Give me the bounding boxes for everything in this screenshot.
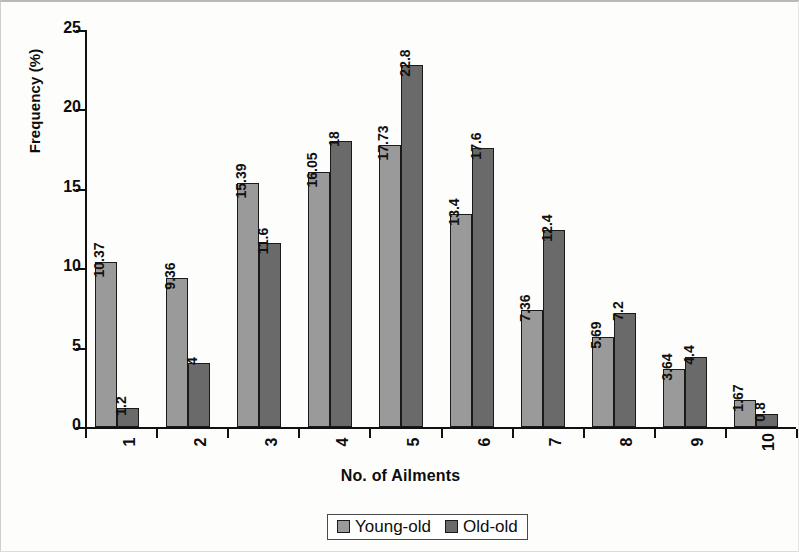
bar: 15.39 <box>237 183 259 427</box>
legend-label: Young-old <box>355 518 431 535</box>
legend-entry[interactable]: Young-old <box>337 518 431 535</box>
y-tick-label: 5 <box>72 337 81 355</box>
x-tick-label: 3 <box>263 422 281 462</box>
x-tick-mark <box>156 429 158 438</box>
bar: 7.2 <box>614 313 636 427</box>
x-tick-label: 2 <box>192 422 210 462</box>
bar-value-label: 10.37 <box>92 243 106 278</box>
x-tick-label: 7 <box>547 422 565 462</box>
y-tick-label: 15 <box>63 178 81 196</box>
bar-value-label: 11.6 <box>256 228 270 254</box>
bar-value-label: 5.69 <box>589 321 603 348</box>
bar-value-label: 17.6 <box>469 132 483 159</box>
bar-value-label: 15.39 <box>234 163 248 198</box>
x-tick-mark <box>369 429 371 438</box>
bar: 7.36 <box>521 310 543 427</box>
x-tick-mark <box>227 429 229 438</box>
bar-value-label: 22.8 <box>398 49 412 76</box>
y-tick-label: 25 <box>63 19 81 37</box>
bar-group: 17.7322.8 <box>369 30 440 427</box>
legend-entry[interactable]: Old-old <box>445 518 518 535</box>
bar-group: 5.697.2 <box>583 30 654 427</box>
bar-group: 13.417.6 <box>441 30 512 427</box>
x-tick-mark <box>298 429 300 438</box>
y-tick-label: 10 <box>63 257 81 275</box>
bar-value-label: 17.73 <box>376 126 390 161</box>
bar-value-label: 4.4 <box>682 345 696 364</box>
bar: 3.64 <box>663 369 685 427</box>
bar: 9.36 <box>166 278 188 427</box>
bar: 4 <box>188 363 210 427</box>
x-axis-title: No. of Ailments <box>1 467 799 485</box>
bar-value-label: 1.2 <box>114 396 128 415</box>
chart-legend: Young-oldOld-old <box>327 514 528 540</box>
x-tick-label: 6 <box>476 422 494 462</box>
bar-value-label: 9.36 <box>163 263 177 290</box>
bar: 17.6 <box>472 148 494 427</box>
bar-group: 7.3612.4 <box>512 30 583 427</box>
x-tick-mark <box>796 429 798 438</box>
bar-group: 15.3911.6 <box>227 30 298 427</box>
x-tick-mark <box>583 429 585 438</box>
bar: 12.4 <box>543 230 565 427</box>
bar-value-label: 7.2 <box>611 301 625 320</box>
bar-value-label: 16.05 <box>305 153 319 188</box>
bar-value-label: 7.36 <box>518 295 532 322</box>
y-tick-label: 0 <box>72 416 81 434</box>
x-tick-label: 4 <box>334 422 352 462</box>
bar-value-label: 18 <box>327 131 341 147</box>
bar: 22.8 <box>401 65 423 427</box>
bar: 5.69 <box>592 337 614 427</box>
x-tick-mark <box>85 429 87 438</box>
x-tick-mark <box>654 429 656 438</box>
bar-value-label: 13.4 <box>447 199 461 226</box>
plot-area: 0510152025 10.371.29.36415.3911.616.0518… <box>85 30 796 429</box>
bar-group: 16.0518 <box>298 30 369 427</box>
x-tick-mark <box>441 429 443 438</box>
legend-swatch-icon <box>445 520 458 533</box>
bar-value-label: 0.8 <box>753 403 767 422</box>
bar: 16.05 <box>308 172 330 427</box>
x-tick-label: 8 <box>618 422 636 462</box>
bar: 18 <box>330 141 352 427</box>
chart-figure: Frequency (%) 0510152025 10.371.29.36415… <box>0 0 799 552</box>
legend-label: Old-old <box>463 518 518 535</box>
bar-value-label: 3.64 <box>660 354 674 381</box>
bar: 17.73 <box>379 145 401 427</box>
legend-swatch-icon <box>337 520 350 533</box>
x-tick-label: 5 <box>405 422 423 462</box>
x-tick-label: 1 <box>121 422 139 462</box>
bar-group: 10.371.2 <box>85 30 156 427</box>
x-tick-mark <box>725 429 727 438</box>
y-axis-title: Frequency (%) <box>22 11 48 191</box>
y-tick-label: 20 <box>63 98 81 116</box>
bar: 4.4 <box>685 357 707 427</box>
x-tick-mark <box>512 429 514 438</box>
bar-group: 9.364 <box>156 30 227 427</box>
bar-value-label: 12.4 <box>540 214 554 241</box>
bar: 11.6 <box>259 243 281 427</box>
bar-group: 3.644.4 <box>654 30 725 427</box>
bar-value-label: 1.67 <box>731 385 745 412</box>
x-tick-label: 10 <box>760 422 778 462</box>
x-tick-label: 9 <box>689 422 707 462</box>
bar: 13.4 <box>450 214 472 427</box>
bar-group: 1.670.8 <box>725 30 796 427</box>
bar-value-label: 4 <box>185 358 199 366</box>
